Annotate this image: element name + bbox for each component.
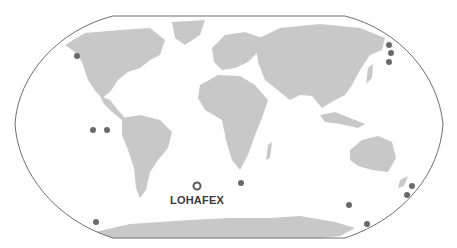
north-america — [65, 28, 165, 98]
site-marker — [404, 192, 410, 198]
world-map — [0, 0, 457, 248]
antarctica — [95, 216, 355, 240]
site-marker — [238, 180, 244, 186]
site-marker — [346, 202, 352, 208]
site-marker — [104, 127, 110, 133]
indonesia — [320, 112, 365, 128]
site-marker — [386, 59, 392, 65]
europe — [212, 32, 262, 70]
site-marker — [386, 42, 392, 48]
greenland — [172, 20, 205, 45]
asia — [255, 24, 385, 108]
site-marker — [364, 221, 370, 227]
africa — [198, 75, 268, 170]
japan — [366, 64, 373, 84]
site-marker — [409, 183, 415, 189]
site-marker — [388, 50, 394, 56]
central-america — [100, 96, 125, 120]
land-masses — [65, 20, 408, 240]
lohafex-marker — [194, 183, 201, 190]
site-marker — [90, 127, 96, 133]
new-zealand — [398, 176, 408, 188]
site-marker — [93, 219, 99, 225]
lohafex-label: LOHAFEX — [170, 194, 224, 206]
australia — [350, 136, 396, 172]
south-america — [122, 115, 172, 198]
site-marker — [74, 53, 80, 59]
madagascar — [266, 142, 272, 160]
